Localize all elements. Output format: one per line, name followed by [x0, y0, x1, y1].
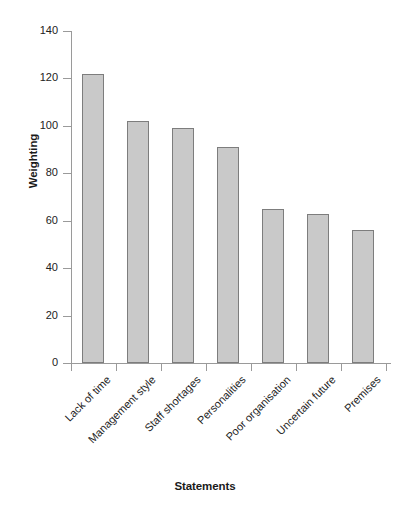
y-axis-tick-label: 60 — [12, 215, 58, 226]
y-axis-tick-label: 20 — [12, 310, 58, 321]
x-axis-tick — [71, 364, 72, 371]
bar — [262, 209, 284, 363]
y-axis-line — [71, 31, 72, 364]
bar — [217, 147, 239, 363]
y-axis-tick-label: 80 — [12, 167, 58, 178]
y-axis-tick-label: 120 — [12, 72, 58, 83]
x-axis-tick — [161, 364, 162, 371]
x-axis-tick — [206, 364, 207, 371]
bar — [82, 74, 104, 363]
y-axis-tick — [63, 126, 71, 127]
bar — [172, 128, 194, 363]
y-axis-tick — [63, 31, 71, 32]
y-axis-tick — [63, 268, 71, 269]
y-axis-tick — [63, 316, 71, 317]
x-axis-tick — [386, 364, 387, 371]
bar — [352, 230, 374, 363]
x-axis-tick — [251, 364, 252, 371]
y-axis-tick — [63, 221, 71, 222]
y-axis-tick-label: 100 — [12, 120, 58, 131]
y-axis-tick — [63, 363, 71, 364]
x-axis-tick — [296, 364, 297, 371]
y-axis-tick — [63, 173, 71, 174]
bar-chart: Weighting 020406080100120140 Lack of tim… — [0, 0, 410, 506]
y-axis-tick — [63, 78, 71, 79]
y-axis-tick-label: 140 — [12, 25, 58, 36]
x-axis-line — [71, 363, 391, 364]
y-axis-tick-label: 40 — [12, 262, 58, 273]
x-axis-title: Statements — [0, 480, 410, 492]
x-axis-tick — [341, 364, 342, 371]
x-axis-tick — [116, 364, 117, 371]
y-axis-tick-label: 0 — [12, 357, 58, 368]
bar — [307, 214, 329, 363]
bar — [127, 121, 149, 363]
